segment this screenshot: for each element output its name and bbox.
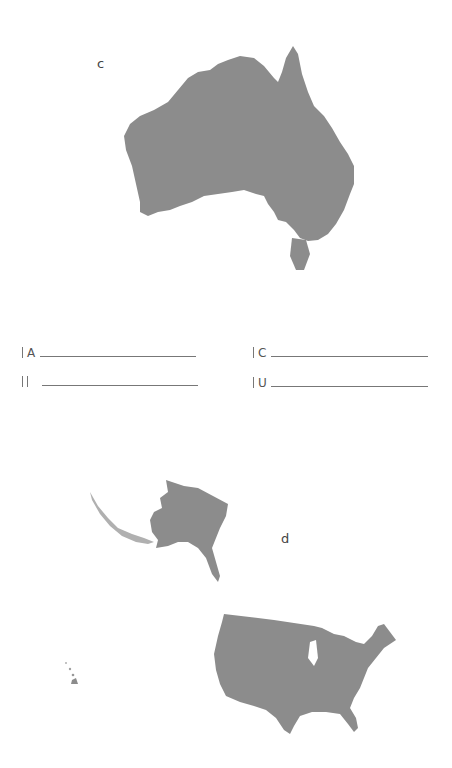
row-marker — [27, 376, 28, 387]
answer-row-i — [22, 376, 198, 389]
label-d: d — [281, 531, 289, 546]
alaska-map — [88, 476, 228, 586]
answer-line[interactable] — [42, 385, 198, 386]
answer-line[interactable] — [271, 356, 428, 357]
answer-row-a: A — [22, 346, 196, 360]
row-marker — [253, 377, 254, 388]
row-letter: U — [258, 376, 267, 390]
row-marker — [22, 347, 23, 358]
hawaii-map — [64, 660, 84, 686]
australia-map — [118, 44, 358, 274]
answer-line[interactable] — [40, 356, 196, 357]
answer-row-u: U — [253, 376, 428, 390]
answer-row-c: C — [253, 346, 428, 360]
row-letter: A — [27, 346, 36, 360]
usa-map — [214, 614, 398, 734]
label-c: c — [97, 56, 104, 71]
answer-line[interactable] — [271, 386, 428, 387]
row-marker — [22, 376, 23, 387]
row-marker — [253, 347, 254, 358]
row-letter: C — [258, 346, 267, 360]
